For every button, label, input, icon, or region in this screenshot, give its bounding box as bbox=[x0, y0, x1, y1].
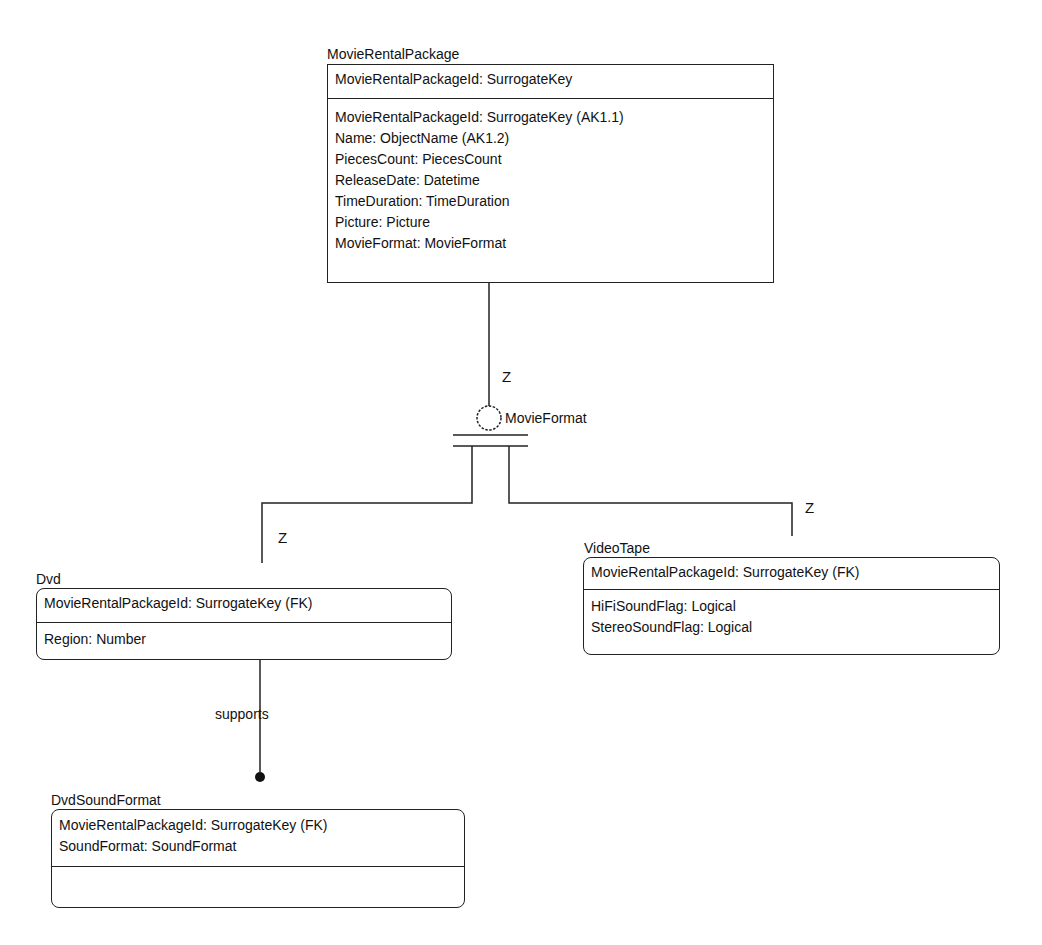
attribute: MovieFormat: MovieFormat bbox=[335, 233, 766, 254]
attribute: Region: Number bbox=[44, 629, 444, 650]
category-videotape-line bbox=[509, 446, 792, 536]
entity-name-videotape: VideoTape bbox=[584, 540, 650, 556]
entity-name-movie-rental-package: MovieRentalPackage bbox=[327, 46, 459, 62]
entity-videotape[interactable]: MovieRentalPackageId: SurrogateKey (FK) … bbox=[583, 557, 1000, 655]
attribute-section: Region: Number bbox=[37, 623, 451, 650]
attribute: PiecesCount: PiecesCount bbox=[335, 149, 766, 170]
attribute-section: MovieRentalPackageId: SurrogateKey (AK1.… bbox=[328, 99, 773, 254]
category-circle-icon bbox=[477, 406, 501, 430]
category-discriminator-label: MovieFormat bbox=[505, 410, 587, 426]
attribute: Name: ObjectName (AK1.2) bbox=[335, 128, 766, 149]
attribute-section: HiFiSoundFlag: Logical StereoSoundFlag: … bbox=[584, 590, 999, 638]
cardinality-dvd-label: Z bbox=[278, 530, 287, 546]
primary-key-section: MovieRentalPackageId: SurrogateKey (FK) bbox=[584, 558, 999, 590]
entity-dvd[interactable]: MovieRentalPackageId: SurrogateKey (FK) … bbox=[36, 588, 452, 660]
key-attribute: MovieRentalPackageId: SurrogateKey (FK) bbox=[591, 562, 992, 583]
primary-key-section: MovieRentalPackageId: SurrogateKey bbox=[328, 65, 773, 99]
cardinality-parent-label: Z bbox=[502, 369, 511, 385]
entity-name-dvd: Dvd bbox=[36, 571, 61, 587]
key-attribute: SoundFormat: SoundFormat bbox=[59, 836, 457, 857]
entity-name-dvd-sound-format: DvdSoundFormat bbox=[51, 792, 161, 808]
entity-dvd-sound-format[interactable]: MovieRentalPackageId: SurrogateKey (FK) … bbox=[51, 809, 465, 908]
category-dvd-line bbox=[262, 446, 472, 563]
attribute: MovieRentalPackageId: SurrogateKey (AK1.… bbox=[335, 107, 766, 128]
key-attribute: MovieRentalPackageId: SurrogateKey (FK) bbox=[59, 815, 457, 836]
key-attribute: MovieRentalPackageId: SurrogateKey (FK) bbox=[44, 593, 444, 614]
attribute: TimeDuration: TimeDuration bbox=[335, 191, 766, 212]
attribute: Picture: Picture bbox=[335, 212, 766, 233]
attribute-section bbox=[52, 867, 464, 870]
primary-key-section: MovieRentalPackageId: SurrogateKey (FK) bbox=[37, 589, 451, 623]
attribute: StereoSoundFlag: Logical bbox=[591, 617, 992, 638]
cardinality-videotape-label: Z bbox=[805, 500, 814, 516]
attribute: ReleaseDate: Datetime bbox=[335, 170, 766, 191]
primary-key-section: MovieRentalPackageId: SurrogateKey (FK) … bbox=[52, 810, 464, 867]
attribute: HiFiSoundFlag: Logical bbox=[591, 596, 992, 617]
key-attribute: MovieRentalPackageId: SurrogateKey bbox=[335, 69, 766, 90]
supports-verb-label: supports bbox=[215, 706, 269, 722]
many-cardinality-dot-icon bbox=[255, 772, 265, 782]
entity-movie-rental-package[interactable]: MovieRentalPackageId: SurrogateKey Movie… bbox=[327, 64, 774, 283]
